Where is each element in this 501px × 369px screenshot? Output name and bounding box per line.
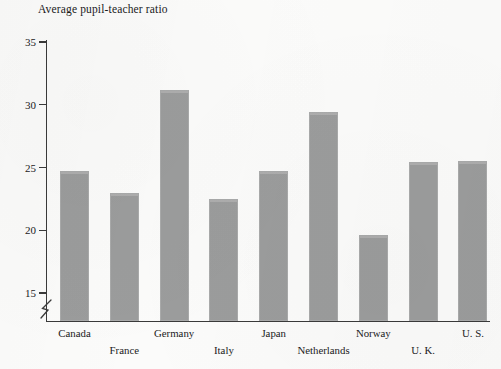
bar-top-highlight bbox=[459, 162, 486, 164]
bar-top-highlight bbox=[310, 113, 337, 115]
y-axis-tick-label: 30 bbox=[8, 99, 36, 110]
chart-page: Average pupil-teacher ratio 1520253035 C… bbox=[0, 0, 501, 369]
bar-top-highlight bbox=[161, 91, 188, 93]
bar-top-highlight bbox=[410, 163, 437, 165]
y-axis-tick-label: 35 bbox=[8, 37, 36, 48]
y-axis-tick-label: 15 bbox=[8, 288, 36, 299]
bar-top-highlight bbox=[260, 172, 287, 174]
bar-germany bbox=[160, 90, 189, 321]
category-label-norway: Norway bbox=[356, 327, 391, 339]
bar-top-highlight bbox=[360, 236, 387, 238]
y-axis-tick-label: 25 bbox=[8, 162, 36, 173]
bar-u-s bbox=[458, 161, 487, 321]
y-axis-tick bbox=[39, 167, 47, 168]
bar-japan bbox=[259, 171, 288, 321]
category-label-japan: Japan bbox=[261, 327, 286, 339]
category-label-netherlands: Netherlands bbox=[297, 344, 349, 356]
y-axis-tick bbox=[39, 230, 47, 231]
bar-canada bbox=[60, 171, 89, 321]
category-label-germany: Germany bbox=[154, 327, 194, 339]
category-label-france: France bbox=[110, 344, 139, 356]
bar-netherlands bbox=[309, 112, 338, 321]
axis-break-icon bbox=[38, 298, 56, 320]
bar-top-highlight bbox=[61, 172, 88, 174]
category-label-italy: Italy bbox=[214, 344, 234, 356]
y-axis-tick bbox=[39, 41, 47, 42]
y-axis-tick-label: 20 bbox=[8, 225, 36, 236]
bar-norway bbox=[359, 235, 388, 321]
y-axis-line bbox=[46, 40, 47, 322]
category-label-canada: Canada bbox=[58, 327, 90, 339]
plot-area: 1520253035 CanadaFranceGermanyItalyJapan… bbox=[0, 0, 501, 369]
y-axis-tick bbox=[39, 104, 47, 105]
bar-france bbox=[110, 193, 139, 321]
bar-italy bbox=[209, 199, 238, 321]
bar-u-k bbox=[409, 162, 438, 321]
category-label-u-s: U. S. bbox=[462, 327, 484, 339]
bar-top-highlight bbox=[111, 194, 138, 196]
y-axis-tick bbox=[39, 292, 47, 293]
x-axis-line bbox=[46, 321, 490, 322]
category-label-u-k: U. K. bbox=[411, 344, 435, 356]
bar-top-highlight bbox=[210, 200, 237, 202]
